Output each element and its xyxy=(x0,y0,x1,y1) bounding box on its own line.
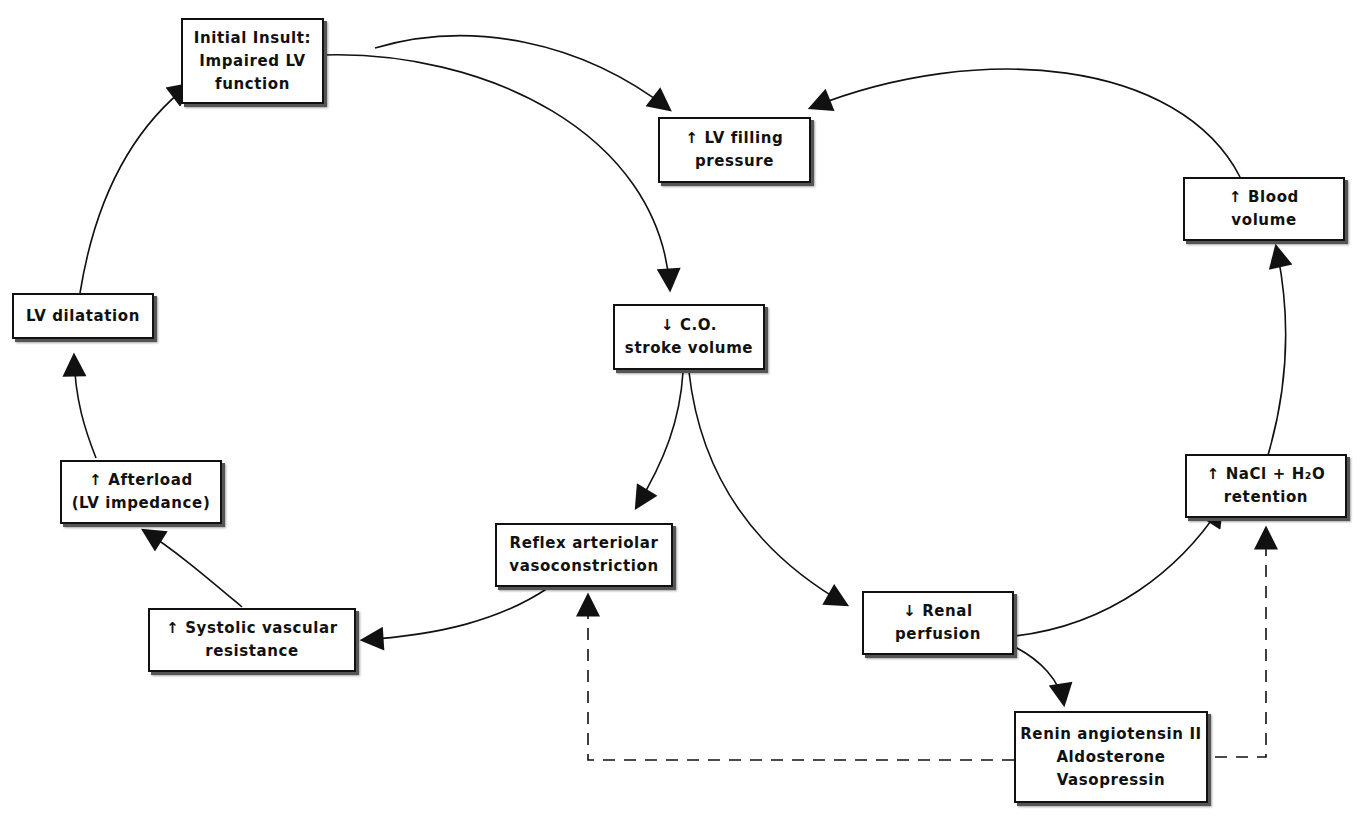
node-text-line: (LV impedance) xyxy=(72,492,211,515)
node-text-line: retention xyxy=(1224,486,1308,509)
node-text-line: ↑ Blood xyxy=(1229,186,1299,209)
edge-co-to-renal xyxy=(689,372,847,605)
node-renal-perfusion: ↓ Renal perfusion xyxy=(862,591,1014,655)
node-text-line: Reflex arteriolar xyxy=(509,532,658,555)
node-text-line: vasoconstriction xyxy=(509,555,658,578)
node-text-line: perfusion xyxy=(895,623,981,646)
node-text-line: function xyxy=(215,73,290,96)
node-lv-filling-pressure: ↑ LV filling pressure xyxy=(658,117,811,183)
edge-renal-to-nacl xyxy=(1015,505,1222,636)
edge-dilatation-to-insult xyxy=(80,84,190,293)
node-co-stroke-volume: ↓ C.O. stroke volume xyxy=(613,304,765,370)
node-text-line: ↑ Systolic vascular xyxy=(166,617,338,640)
node-text-line: Renin angiotensin II xyxy=(1020,723,1202,746)
node-text-line: Impaired LV xyxy=(199,50,305,73)
edge-afterload-to-dilatation xyxy=(74,355,96,458)
edge-systolic-to-afterload xyxy=(143,530,242,607)
node-text-line: Initial Insult: xyxy=(194,27,311,50)
node-afterload: ↑ Afterload (LV impedance) xyxy=(60,460,222,524)
node-text-line: ↓ Renal xyxy=(903,600,973,623)
node-reflex-vasoconstriction: Reflex arteriolar vasoconstriction xyxy=(495,523,673,587)
node-text-line: ↑ NaCl + H₂O xyxy=(1207,463,1326,486)
edge-co-to-reflex xyxy=(636,372,683,508)
node-text-line: ↓ C.O. xyxy=(661,314,717,337)
node-text-line: Vasopressin xyxy=(1057,769,1166,792)
node-text-line: stroke volume xyxy=(625,337,753,360)
node-lv-dilatation: LV dilatation xyxy=(12,293,154,339)
node-nacl-h2o-retention: ↑ NaCl + H₂O retention xyxy=(1185,454,1347,518)
node-text-line: ↑ LV filling xyxy=(686,127,784,150)
edge-blood-to-filling xyxy=(810,69,1240,177)
edge-insult-to-co xyxy=(323,55,670,290)
node-renin-aldosterone-vasopressin: Renin angiotensin II Aldosterone Vasopre… xyxy=(1014,711,1208,803)
node-text-line: ↑ Afterload xyxy=(89,469,193,492)
node-text-line: LV dilatation xyxy=(26,305,140,328)
lv-failure-cycle-diagram: Initial Insult: Impaired LV function ↑ L… xyxy=(0,0,1369,821)
edge-nacl-to-blood xyxy=(1268,246,1286,455)
node-blood-volume: ↑ Blood volume xyxy=(1183,177,1345,241)
edge-renin-to-nacl-dashed xyxy=(1215,528,1266,757)
edge-insult-to-filling xyxy=(375,36,670,110)
edge-reflex-to-systolic xyxy=(362,588,548,640)
node-text-line: volume xyxy=(1231,209,1296,232)
node-text-line: pressure xyxy=(695,150,774,173)
node-text-line: resistance xyxy=(205,640,299,663)
node-systolic-vascular-resistance: ↑ Systolic vascular resistance xyxy=(148,608,356,672)
node-initial-insult: Initial Insult: Impaired LV function xyxy=(181,18,324,104)
edge-renal-to-renin xyxy=(1015,647,1064,705)
node-text-line: Aldosterone xyxy=(1056,746,1165,769)
